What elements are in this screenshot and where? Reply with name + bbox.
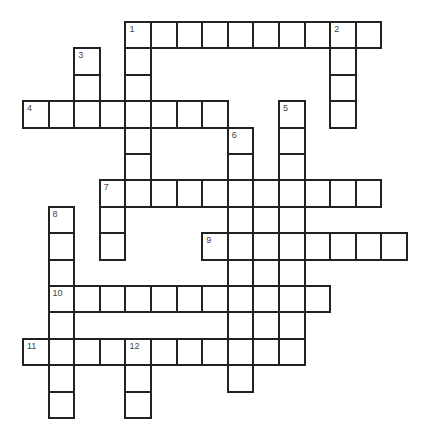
- crossword-cell[interactable]: [48, 259, 76, 287]
- crossword-cell[interactable]: [355, 21, 383, 49]
- crossword-cell[interactable]: [99, 232, 127, 260]
- crossword-cell[interactable]: [355, 179, 383, 207]
- crossword-cell[interactable]: [201, 21, 229, 49]
- crossword-cell[interactable]: [124, 179, 152, 207]
- crossword-cell[interactable]: [329, 232, 357, 260]
- crossword-cell[interactable]: [252, 21, 280, 49]
- crossword-cell[interactable]: [73, 285, 101, 313]
- clue-number: 4: [27, 103, 32, 113]
- crossword-cell[interactable]: [48, 100, 76, 128]
- crossword-cell[interactable]: [124, 127, 152, 155]
- crossword-cell[interactable]: [227, 285, 255, 313]
- crossword-cell[interactable]: [48, 232, 76, 260]
- clue-number: 1: [129, 24, 134, 34]
- crossword-cell[interactable]: 10: [48, 285, 76, 313]
- crossword-cell[interactable]: [73, 100, 101, 128]
- crossword-cell[interactable]: [73, 74, 101, 102]
- crossword-cell[interactable]: [329, 179, 357, 207]
- crossword-cell[interactable]: [176, 100, 204, 128]
- crossword-cell[interactable]: [227, 311, 255, 339]
- crossword-cell[interactable]: [124, 391, 152, 419]
- crossword-cell[interactable]: [278, 285, 306, 313]
- crossword-cell[interactable]: [278, 259, 306, 287]
- crossword-cell[interactable]: [355, 232, 383, 260]
- crossword-cell[interactable]: [278, 21, 306, 49]
- clue-number: 3: [78, 50, 83, 60]
- crossword-cell[interactable]: [176, 285, 204, 313]
- crossword-cell[interactable]: 12: [124, 338, 152, 366]
- crossword-cell[interactable]: [278, 179, 306, 207]
- crossword-cell[interactable]: [278, 232, 306, 260]
- crossword-cell[interactable]: [150, 285, 178, 313]
- crossword-cell[interactable]: [329, 47, 357, 75]
- crossword-cell[interactable]: [278, 206, 306, 234]
- crossword-cell[interactable]: [278, 153, 306, 181]
- crossword-cell[interactable]: [99, 100, 127, 128]
- crossword-cell[interactable]: [48, 364, 76, 392]
- crossword-cell[interactable]: [124, 74, 152, 102]
- crossword-cell[interactable]: [380, 232, 408, 260]
- crossword-cell[interactable]: [48, 391, 76, 419]
- crossword-cell[interactable]: 4: [22, 100, 50, 128]
- crossword-cell[interactable]: 6: [227, 127, 255, 155]
- crossword-cell[interactable]: [48, 311, 76, 339]
- crossword-cell[interactable]: [252, 285, 280, 313]
- crossword-cell[interactable]: 2: [329, 21, 357, 49]
- crossword-cell[interactable]: [329, 100, 357, 128]
- crossword-cell[interactable]: [73, 338, 101, 366]
- clue-number: 5: [283, 103, 288, 113]
- crossword-cell[interactable]: [99, 338, 127, 366]
- crossword-cell[interactable]: 7: [99, 179, 127, 207]
- clue-number: 10: [53, 288, 63, 298]
- crossword-cell[interactable]: [176, 338, 204, 366]
- crossword-cell[interactable]: [329, 74, 357, 102]
- crossword-cell[interactable]: 8: [48, 206, 76, 234]
- crossword-cell[interactable]: [150, 100, 178, 128]
- crossword-cell[interactable]: [227, 232, 255, 260]
- crossword-cell[interactable]: [227, 21, 255, 49]
- crossword-cell[interactable]: [252, 206, 280, 234]
- crossword-cell[interactable]: [201, 100, 229, 128]
- crossword-cell[interactable]: [252, 232, 280, 260]
- crossword-cell[interactable]: [124, 364, 152, 392]
- crossword-cell[interactable]: [227, 206, 255, 234]
- crossword-cell[interactable]: [124, 47, 152, 75]
- crossword-cell[interactable]: [150, 338, 178, 366]
- crossword-cell[interactable]: 11: [22, 338, 50, 366]
- crossword-cell[interactable]: [227, 179, 255, 207]
- crossword-cell[interactable]: [124, 285, 152, 313]
- crossword-cell[interactable]: [252, 338, 280, 366]
- crossword-cell[interactable]: 3: [73, 47, 101, 75]
- crossword-cell[interactable]: [201, 179, 229, 207]
- crossword-cell[interactable]: [201, 285, 229, 313]
- crossword-cell[interactable]: [124, 100, 152, 128]
- crossword-cell[interactable]: [278, 338, 306, 366]
- crossword-cell[interactable]: [227, 259, 255, 287]
- crossword-cell[interactable]: [150, 179, 178, 207]
- crossword-cell[interactable]: 5: [278, 100, 306, 128]
- crossword-cell[interactable]: [304, 21, 332, 49]
- crossword-cell[interactable]: [176, 179, 204, 207]
- crossword-cell[interactable]: [252, 179, 280, 207]
- crossword-cell[interactable]: [99, 206, 127, 234]
- crossword-cell[interactable]: [304, 179, 332, 207]
- crossword-cell[interactable]: [252, 259, 280, 287]
- crossword-cell[interactable]: [278, 311, 306, 339]
- crossword-cell[interactable]: [304, 232, 332, 260]
- crossword-cell[interactable]: 1: [124, 21, 152, 49]
- crossword-cell[interactable]: [124, 153, 152, 181]
- crossword-cell[interactable]: [201, 338, 229, 366]
- crossword-cell[interactable]: [150, 21, 178, 49]
- crossword-cell[interactable]: [99, 285, 127, 313]
- crossword-cell[interactable]: [227, 338, 255, 366]
- crossword-cell[interactable]: [252, 311, 280, 339]
- crossword-cell[interactable]: [48, 338, 76, 366]
- crossword-cell[interactable]: [278, 127, 306, 155]
- crossword-cell[interactable]: [227, 364, 255, 392]
- crossword-cell[interactable]: [304, 285, 332, 313]
- crossword-cell[interactable]: 9: [201, 232, 229, 260]
- crossword-cell[interactable]: [176, 21, 204, 49]
- crossword-cell[interactable]: [227, 153, 255, 181]
- clue-number: 6: [232, 130, 237, 140]
- clue-number: 8: [53, 209, 58, 219]
